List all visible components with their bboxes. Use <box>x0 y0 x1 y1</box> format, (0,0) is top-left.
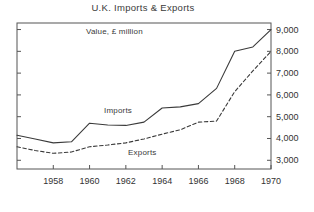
plot-frame <box>17 23 271 169</box>
chart-container: U.K. Imports & Exports Value, £ million … <box>0 0 314 212</box>
data-line-imports <box>17 30 271 143</box>
axis-tick-marks <box>17 30 271 169</box>
data-line-exports <box>17 51 271 153</box>
plot-area <box>0 0 314 212</box>
